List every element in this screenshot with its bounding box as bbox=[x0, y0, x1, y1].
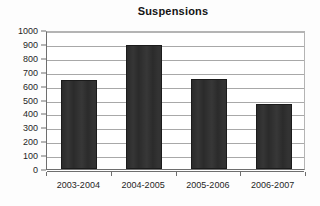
x-axis: 2003-20042004-20052005-20062006-2007 bbox=[46, 172, 305, 194]
y-axis-tick-label: 800 bbox=[23, 54, 38, 63]
x-tick-mark bbox=[111, 172, 112, 176]
y-axis-tick-label: 200 bbox=[23, 138, 38, 147]
x-axis-tick-label: 2005-2006 bbox=[186, 180, 229, 190]
x-tick-mark bbox=[46, 172, 47, 176]
bar-slot bbox=[112, 32, 177, 169]
bars-layer bbox=[47, 32, 304, 169]
plot-area bbox=[46, 31, 305, 170]
y-axis-tick-label: 0 bbox=[33, 166, 38, 175]
bar-slot bbox=[177, 32, 242, 169]
chart-title: Suspensions bbox=[0, 5, 320, 17]
bar[interactable] bbox=[191, 79, 227, 169]
bar-slot bbox=[241, 32, 306, 169]
y-axis-tick-label: 600 bbox=[23, 82, 38, 91]
y-axis: 01002003004005006007008009001000 bbox=[0, 31, 46, 170]
y-axis-tick-label: 500 bbox=[23, 96, 38, 105]
bar[interactable] bbox=[61, 80, 97, 169]
y-axis-tick-label: 400 bbox=[23, 110, 38, 119]
y-axis-tick-label: 700 bbox=[23, 68, 38, 77]
x-axis-tick-label: 2003-2004 bbox=[57, 180, 100, 190]
y-axis-tick-label: 100 bbox=[23, 152, 38, 161]
y-axis-tick-label: 1000 bbox=[18, 27, 38, 36]
bar[interactable] bbox=[256, 104, 292, 169]
x-tick-mark bbox=[305, 172, 306, 176]
bar-chart: Suspensions 0100200300400500600700800900… bbox=[0, 0, 320, 206]
y-axis-tick-label: 900 bbox=[23, 40, 38, 49]
x-axis-tick-label: 2006-2007 bbox=[251, 180, 294, 190]
bar[interactable] bbox=[126, 45, 162, 169]
y-axis-tick-label: 300 bbox=[23, 124, 38, 133]
x-axis-tick-label: 2004-2005 bbox=[122, 180, 165, 190]
bar-slot bbox=[47, 32, 112, 169]
x-tick-mark bbox=[240, 172, 241, 176]
x-tick-mark bbox=[176, 172, 177, 176]
